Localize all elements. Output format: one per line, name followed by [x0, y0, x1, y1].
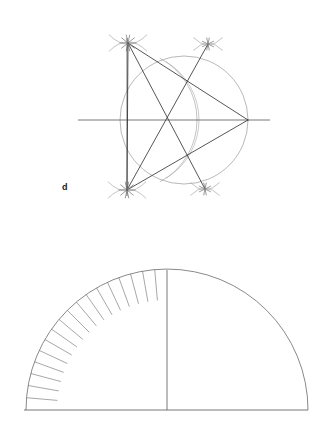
construction-canvas: d — [0, 0, 329, 433]
figure-plate: d — [0, 0, 329, 433]
page-background — [0, 0, 329, 433]
figure-label-d: d — [62, 182, 68, 192]
